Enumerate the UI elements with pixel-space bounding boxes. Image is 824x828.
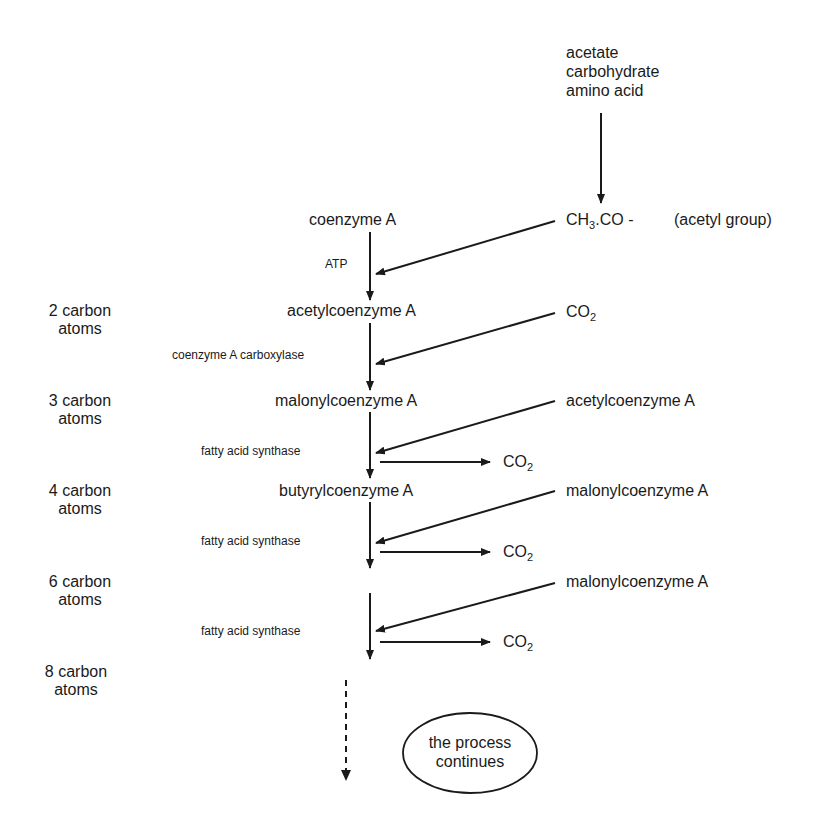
input-malonylcoenzyme-a-2: malonylcoenzyme A xyxy=(566,573,708,591)
dashed-arrowhead xyxy=(341,770,351,781)
carbon-count-6: 6 carbon atoms xyxy=(38,573,122,610)
enzyme-fatty-acid-synthase-1: fatty acid synthase xyxy=(201,445,300,459)
chain-malonylcoenzyme-a: malonylcoenzyme A xyxy=(275,392,417,410)
chain-coenzyme-a: coenzyme A xyxy=(309,211,396,229)
acetyl-group-formula: CH3.CO - xyxy=(566,211,633,229)
sources-list: acetate carbohydrate amino acid xyxy=(566,43,659,100)
source-acetate: acetate xyxy=(566,43,659,62)
enzyme-fatty-acid-synthase-3: fatty acid synthase xyxy=(201,625,300,639)
arrow-acetyl-to-coa xyxy=(376,221,555,274)
carbon-count-4: 4 carbon atoms xyxy=(38,482,122,519)
source-carbohydrate: carbohydrate xyxy=(566,62,659,81)
input-co2: CO2 xyxy=(566,303,596,321)
chain-butyrylcoenzyme-a: butyrylcoenzyme A xyxy=(279,482,413,500)
enzyme-atp: ATP xyxy=(325,258,347,272)
output-co2-1: CO2 xyxy=(503,453,533,471)
carbon-count-2: 2 carbon atoms xyxy=(38,302,122,339)
output-co2-3: CO2 xyxy=(503,633,533,651)
carbon-count-3: 3 carbon atoms xyxy=(38,392,122,429)
enzyme-fatty-acid-synthase-2: fatty acid synthase xyxy=(201,535,300,549)
arrow-malonylcoa-in-2 xyxy=(376,583,555,631)
chain-acetylcoenzyme-a: acetylcoenzyme A xyxy=(287,302,416,320)
input-acetylcoenzyme-a: acetylcoenzyme A xyxy=(566,392,695,410)
input-malonylcoenzyme-a-1: malonylcoenzyme A xyxy=(566,482,708,500)
carbon-count-8: 8 carbon atoms xyxy=(34,663,118,700)
arrow-co2-in xyxy=(376,313,555,364)
enzyme-coa-carboxylase: coenzyme A carboxylase xyxy=(172,349,304,363)
output-co2-2: CO2 xyxy=(503,543,533,561)
continuation-text: the process continues xyxy=(405,733,535,771)
arrow-layer xyxy=(0,0,824,828)
acetyl-group-note: (acetyl group) xyxy=(674,211,772,229)
source-amino-acid: amino acid xyxy=(566,81,659,100)
